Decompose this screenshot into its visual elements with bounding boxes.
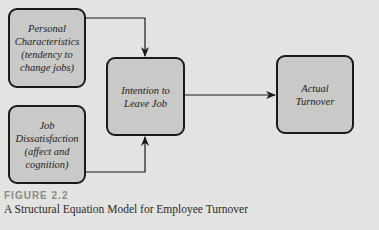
figure-caption: A Structural Equation Model for Employee… — [4, 203, 248, 215]
node-personal-characteristics: Personal Characteristics (tendency to ch… — [8, 8, 86, 88]
node-line: change jobs) — [15, 61, 80, 74]
edge-dissatisfaction-to-intention — [86, 137, 145, 172]
figure-label: FIGURE 2.2 — [4, 190, 68, 201]
node-line: Turnover — [296, 95, 335, 108]
node-line: (tendency to — [15, 48, 80, 61]
node-line: Personal — [15, 22, 80, 35]
node-job-dissatisfaction: Job Dissatisfaction (affect and cognitio… — [8, 105, 86, 184]
edge-personal-to-intention — [86, 18, 145, 56]
node-line: Leave Job — [121, 97, 170, 110]
node-line: Actual — [296, 82, 335, 95]
node-actual-turnover: Actual Turnover — [276, 55, 354, 134]
node-line: cognition) — [15, 158, 78, 171]
node-line: Characteristics — [15, 35, 80, 48]
node-line: Dissatisfaction — [15, 132, 78, 145]
node-line: Intention to — [121, 84, 170, 97]
node-line: Job — [15, 119, 78, 132]
node-intention-to-leave: Intention to Leave Job — [106, 57, 185, 136]
node-line: (affect and — [15, 145, 78, 158]
